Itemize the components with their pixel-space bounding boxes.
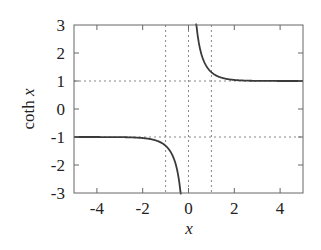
y-tick-label: -1 <box>51 128 65 147</box>
y-axis-label-var: x <box>19 88 38 97</box>
x-tick-label: -4 <box>90 199 105 218</box>
y-tick-label: 0 <box>57 100 66 119</box>
x-tick-label: 0 <box>184 199 193 218</box>
y-tick-label: 1 <box>57 72 66 91</box>
x-tick-label: 4 <box>276 199 285 218</box>
y-axis-label-func: coth <box>19 96 38 130</box>
y-tick-label: -2 <box>51 156 65 175</box>
x-tick-labels: -4-2024 <box>90 199 285 218</box>
coth-chart: -4-2024 -3-2-10123 x coth x <box>0 0 321 250</box>
x-tick-label: -2 <box>136 199 150 218</box>
reference-lines <box>74 25 303 193</box>
y-axis-label: coth x <box>19 88 38 130</box>
y-tick-label: -3 <box>51 184 65 203</box>
coth-curve <box>196 24 303 81</box>
x-tick-label: 2 <box>230 199 239 218</box>
x-axis-label: x <box>184 219 193 238</box>
y-tick-label: 2 <box>57 44 66 63</box>
coth-curve <box>74 137 181 194</box>
y-tick-labels: -3-2-10123 <box>51 16 65 203</box>
y-tick-label: 3 <box>57 16 66 35</box>
plot-curves <box>74 24 303 195</box>
